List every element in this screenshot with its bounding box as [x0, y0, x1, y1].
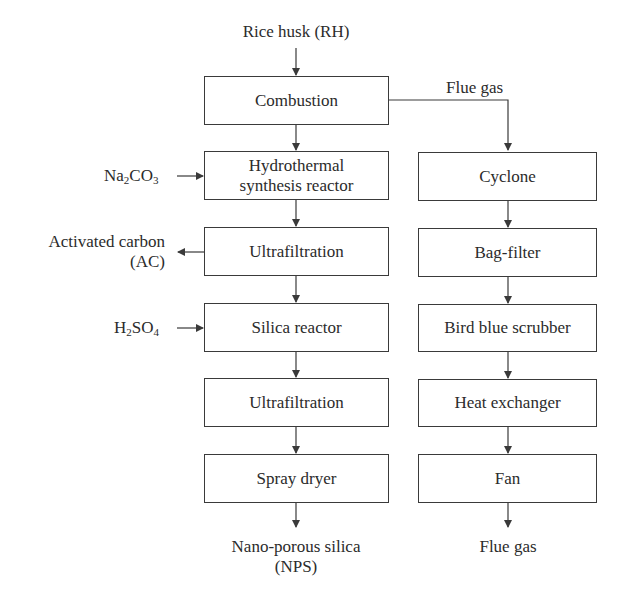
box-label: Fan [495, 469, 521, 489]
output-nps-line1: Nano-porous silica [232, 537, 361, 557]
box-heat-exchanger: Heat exchanger [418, 379, 597, 427]
output-ac-line1: Activated carbon [48, 232, 165, 252]
box-bird-blue-scrubber: Bird blue scrubber [418, 304, 597, 352]
output-nano-porous-silica: Nano-porous silica (NPS) [232, 537, 361, 577]
process-flow-diagram: Rice husk (RH) Combustion Hydrothermal s… [0, 0, 626, 612]
box-silica-reactor: Silica reactor [204, 303, 389, 352]
box-label: Cyclone [479, 167, 536, 187]
box-fan: Fan [418, 454, 597, 503]
output-ac-line2: (AC) [48, 252, 165, 272]
output-activated-carbon: Activated carbon (AC) [48, 232, 165, 272]
box-ultrafiltration-1: Ultrafiltration [204, 227, 389, 276]
label-flue-gas-branch: Flue gas [446, 78, 503, 98]
box-spray-dryer: Spray dryer [204, 454, 389, 503]
box-label: Silica reactor [251, 318, 341, 338]
input-h2so4: H2SO4 [114, 318, 159, 338]
box-label: Combustion [255, 91, 338, 111]
box-label: Bag-filter [474, 243, 540, 263]
arrow-flue-gas-branch [389, 100, 508, 150]
box-cyclone: Cyclone [418, 152, 597, 201]
box-hydrothermal-synthesis-reactor: Hydrothermal synthesis reactor [204, 151, 389, 200]
input-na2co3: Na2CO3 [104, 166, 158, 186]
box-label: Heat exchanger [454, 393, 560, 413]
box-bag-filter: Bag-filter [418, 228, 597, 277]
box-label-line2: synthesis reactor [240, 176, 354, 196]
input-rice-husk: Rice husk (RH) [243, 22, 350, 42]
box-label: Bird blue scrubber [444, 318, 571, 338]
box-label: Spray dryer [257, 469, 337, 489]
output-flue-gas: Flue gas [479, 537, 536, 557]
box-combustion: Combustion [204, 76, 389, 125]
box-label-line1: Hydrothermal [249, 156, 344, 176]
box-label: Ultrafiltration [249, 242, 343, 262]
box-label: Ultrafiltration [249, 393, 343, 413]
output-nps-line2: (NPS) [232, 557, 361, 577]
box-ultrafiltration-2: Ultrafiltration [204, 378, 389, 427]
